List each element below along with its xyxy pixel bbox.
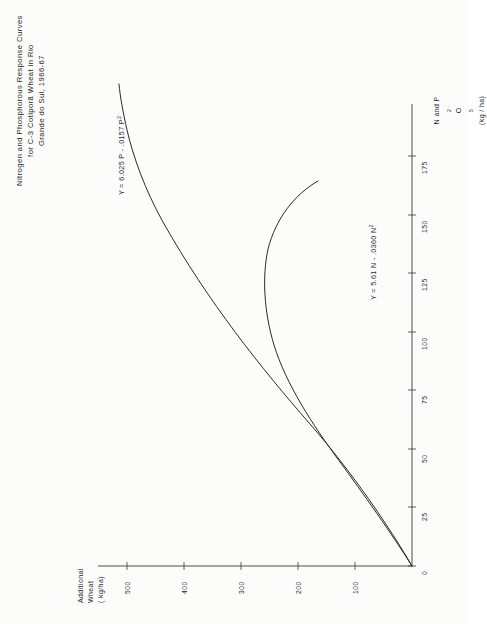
- x-axis-label-n-and-p: N and P: [432, 96, 442, 125]
- equation-phosphorous-text: Y = 6.025 P - .0157 P: [117, 119, 126, 195]
- y-axis-label-line-2: Wheat: [86, 568, 96, 603]
- equation-label-nitrogen: Y = 5.61 N - .0360 N2: [368, 224, 378, 300]
- equation-nitrogen-text: Y = 5.61 N - .0360 N: [369, 227, 378, 300]
- x-tick-label-125: 125: [421, 278, 428, 291]
- x-axis-label: N and P2O5 (kg / ha): [432, 96, 487, 125]
- y-tick-label-400: 400: [181, 581, 188, 594]
- x-tick-label-0: 0: [421, 571, 428, 575]
- x-tick-label-50: 50: [421, 454, 428, 463]
- equation-nitrogen-exponent: 2: [368, 224, 374, 227]
- x-tick-label-175: 175: [421, 161, 428, 174]
- x-axis-label-line-2: (kg / ha): [477, 96, 487, 125]
- y-tick-label-300: 300: [238, 581, 245, 594]
- x-tick-label-75: 75: [421, 395, 428, 404]
- x-tick-label-100: 100: [421, 337, 428, 350]
- x-tick-label-150: 150: [421, 220, 428, 233]
- x-axis-label-line-1: N and P2O5: [432, 96, 477, 125]
- equation-label-phosphorous: Y = 6.025 P - .0157 P2: [116, 116, 126, 195]
- x-axis-label-o: O: [454, 96, 464, 125]
- y-axis-label: Additional Wheat ( kg/ha): [76, 568, 106, 603]
- x-axis-label-sub-5: 5: [469, 109, 475, 112]
- chart-title: Nitrogen and Phosphorous Response Curves…: [14, 15, 48, 186]
- y-tick-label-100: 100: [352, 581, 359, 594]
- chart-title-line-1: Nitrogen and Phosphorous Response Curves: [14, 15, 25, 186]
- curve-nitrogen: [265, 181, 412, 566]
- x-tick-label-25: 25: [421, 512, 428, 521]
- curve-phosphorous: [119, 84, 412, 566]
- equation-phosphorous-exponent: 2: [116, 116, 122, 119]
- y-tick-label-500: 500: [124, 581, 131, 594]
- y-axis-label-line-3: ( kg/ha): [96, 568, 106, 603]
- chart-title-line-3: Grande do Sul, 1966-67: [36, 15, 47, 186]
- y-tick-label-200: 200: [295, 581, 302, 594]
- y-axis-label-line-1: Additional: [76, 568, 86, 603]
- x-axis-label-sub-2: 2: [446, 109, 452, 112]
- chart-title-line-2: for C-3 Cotiporã Wheat in Rio: [25, 15, 36, 186]
